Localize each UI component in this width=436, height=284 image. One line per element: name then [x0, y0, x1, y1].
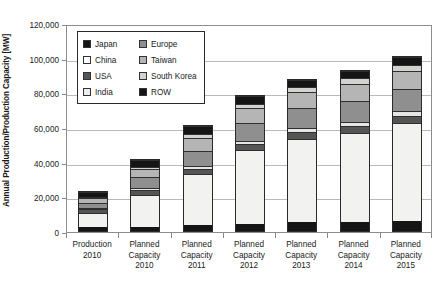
y-tick-label: 40,000 [34, 159, 59, 168]
bar-2 [130, 159, 160, 232]
bar-7 [392, 56, 422, 232]
y-tick-label: 80,000 [34, 90, 59, 99]
bar-segment-china [79, 213, 107, 228]
legend-swatch-usa [83, 72, 91, 80]
x-tick-mark [431, 233, 432, 238]
y-axis-title-text: Annual Production/Production Capacity [M… [3, 33, 12, 206]
legend-label: China [95, 56, 116, 65]
bar-segment-usa [393, 116, 421, 123]
bar-3 [183, 125, 213, 232]
bar-segment-europe [341, 101, 369, 122]
bar-6 [340, 70, 370, 232]
x-axis-tick-labels: Production2010PlannedCapacity2010Planned… [66, 240, 432, 282]
bar-segment-taiwan [288, 92, 316, 108]
legend-entry-south-korea[interactable]: South Korea [139, 72, 205, 81]
legend-label: India [95, 88, 113, 97]
bar-segment-japan [184, 225, 212, 231]
y-tick-label: 0 [54, 229, 59, 238]
stacked-bar-chart: Annual Production/Production Capacity [M… [0, 0, 436, 284]
bar-segment-china [184, 174, 212, 225]
bar-segment-china [131, 195, 159, 227]
bar-segment-taiwan [393, 71, 421, 89]
legend-entry-japan[interactable]: Japan [83, 40, 139, 49]
legend-entry-europe[interactable]: Europe [139, 40, 205, 49]
bar-segment-row [341, 71, 369, 78]
legend-label: Europe [151, 40, 177, 49]
y-axis-tick-labels: 020,00040,00060,00080,000100,000120,000 [12, 25, 62, 233]
bar-segment-japan [341, 222, 369, 231]
bar-segment-japan [393, 221, 421, 231]
bar-segment-taiwan [236, 108, 264, 123]
bar-segment-taiwan [184, 138, 212, 151]
x-axis-tick-marks [66, 233, 432, 238]
legend-label: Taiwan [151, 56, 177, 65]
bar-segment-usa [341, 126, 369, 133]
x-tick-label: PlannedCapacity2015 [375, 240, 436, 272]
bar-segment-europe [236, 123, 264, 141]
bar-segment-china [288, 139, 316, 223]
x-tick-mark [223, 233, 224, 238]
legend-label: Japan [95, 40, 117, 49]
bar-segment-row [184, 126, 212, 135]
y-tick-label: 100,000 [29, 55, 59, 64]
x-tick-mark [380, 233, 381, 238]
legend-entry-row[interactable]: ROW [139, 88, 205, 97]
x-tick-mark [171, 233, 172, 238]
bar-segment-row [288, 80, 316, 87]
bar-segment-taiwan [341, 84, 369, 101]
bar-segment-china [236, 150, 264, 223]
legend-grid: JapanEuropeChinaTaiwanUSASouth KoreaIndi… [83, 36, 200, 100]
bar-5 [287, 79, 317, 232]
x-tick-mark [118, 233, 119, 238]
legend-swatch-row [139, 88, 147, 96]
bar-4 [235, 95, 265, 232]
y-tick-label: 120,000 [29, 21, 59, 30]
chart-legend: JapanEuropeChinaTaiwanUSASouth KoreaIndi… [77, 31, 205, 104]
bar-segment-europe [131, 177, 159, 188]
legend-swatch-japan [83, 40, 91, 48]
legend-swatch-china [83, 56, 91, 64]
legend-swatch-europe [139, 40, 147, 48]
bar-segment-europe [393, 89, 421, 112]
bar-segment-japan [288, 222, 316, 231]
bar-segment-usa [288, 132, 316, 139]
bar-segment-china [393, 123, 421, 222]
bar-segment-europe [288, 108, 316, 128]
legend-label: ROW [151, 88, 171, 97]
bar-segment-europe [184, 151, 212, 166]
legend-label: USA [95, 72, 112, 81]
x-tick-mark [275, 233, 276, 238]
bar-segment-china [341, 133, 369, 222]
legend-label: South Korea [151, 72, 197, 81]
bar-segment-japan [236, 224, 264, 231]
x-tick-label-line: 2015 [375, 261, 436, 272]
bar-segment-taiwan [131, 169, 159, 178]
legend-entry-india[interactable]: India [83, 88, 139, 97]
x-tick-mark [66, 233, 67, 238]
legend-entry-taiwan[interactable]: Taiwan [139, 56, 205, 65]
bar-1 [78, 191, 108, 232]
y-tick-label: 60,000 [34, 125, 59, 134]
legend-swatch-south-korea [139, 72, 147, 80]
legend-swatch-india [83, 88, 91, 96]
legend-entry-china[interactable]: China [83, 56, 139, 65]
x-tick-label-line: Planned [375, 240, 436, 251]
bar-segment-row [393, 57, 421, 65]
bar-segment-japan [79, 227, 107, 231]
bar-segment-row [236, 96, 264, 104]
bar-segment-japan [131, 227, 159, 231]
legend-swatch-taiwan [139, 56, 147, 64]
x-tick-mark [327, 233, 328, 238]
legend-entry-usa[interactable]: USA [83, 72, 139, 81]
y-tick-label: 20,000 [34, 194, 59, 203]
x-tick-label-line: Capacity [375, 251, 436, 262]
